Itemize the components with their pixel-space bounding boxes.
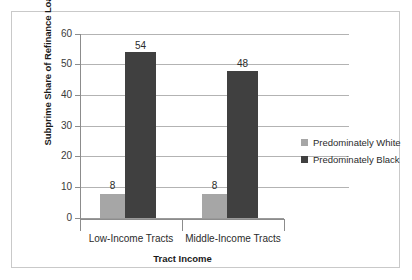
x-tick-left (80, 219, 81, 231)
legend-label-predominately-black: Predominately Black (313, 154, 400, 165)
chart-figure: 8 54 8 48 60 50 40 30 20 10 0 Subprime S… (0, 0, 412, 280)
chart-legend: Predominately White Predominately Black (301, 134, 401, 168)
y-axis-line (80, 34, 81, 219)
x-tick-right (284, 219, 285, 231)
legend-swatch-icon-black (301, 156, 308, 163)
y-tick-10 (75, 187, 80, 188)
plot-area: 8 54 8 48 (80, 34, 284, 218)
x-category-label-middle-income: Middle-Income Tracts (182, 233, 284, 245)
bar-middle-income-white[interactable] (202, 194, 227, 219)
y-tick-40 (75, 95, 80, 96)
chart-frame: 8 54 8 48 60 50 40 30 20 10 0 Subprime S… (11, 11, 400, 268)
value-label-low-income-white: 8 (94, 180, 131, 191)
y-tick-label-10: 10 (32, 182, 72, 192)
legend-item-predominately-white[interactable]: Predominately White (301, 134, 401, 151)
y-tick-50 (75, 64, 80, 65)
value-label-low-income-black: 54 (122, 40, 159, 51)
y-tick-label-0: 0 (32, 213, 72, 223)
value-label-middle-income-black: 48 (224, 58, 261, 69)
legend-label-predominately-white: Predominately White (313, 137, 401, 148)
gridline-30 (80, 126, 349, 127)
bar-low-income-black[interactable] (125, 52, 156, 218)
y-tick-label-20: 20 (32, 151, 72, 161)
y-tick-30 (75, 126, 80, 127)
value-label-middle-income-white: 8 (196, 180, 233, 191)
legend-swatch-icon-white (301, 139, 308, 146)
y-axis-title: Subprime Share of Refinance Loans (42, 0, 53, 150)
bar-middle-income-black[interactable] (227, 71, 258, 218)
x-category-label-low-income: Low-Income Tracts (80, 233, 182, 245)
x-tick-middle (182, 219, 183, 231)
gridline-50 (80, 64, 349, 65)
legend-item-predominately-black[interactable]: Predominately Black (301, 151, 401, 168)
gridline-60 (80, 34, 349, 35)
bar-low-income-white[interactable] (100, 194, 125, 219)
x-axis-title: Tract Income (80, 253, 285, 264)
gridline-40 (80, 95, 349, 96)
y-tick-20 (75, 156, 80, 157)
y-tick-60 (75, 34, 80, 35)
